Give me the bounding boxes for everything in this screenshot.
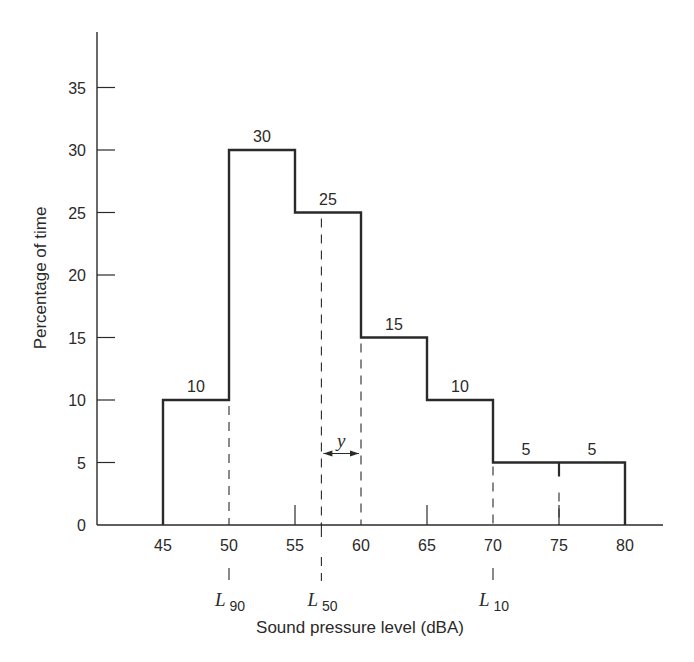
histogram-step-path xyxy=(163,150,625,525)
bar-value-label: 15 xyxy=(385,316,403,333)
x-tick-label: 80 xyxy=(616,537,634,554)
histogram-outline xyxy=(163,150,625,525)
marker-subscript: 90 xyxy=(230,598,246,614)
axes: 051015202530354550556065707580 xyxy=(68,32,663,554)
dashed-guides xyxy=(229,219,559,526)
bar-value-label: 30 xyxy=(253,128,271,145)
y-tick-label: 30 xyxy=(68,142,86,159)
marker-subscript: 10 xyxy=(494,598,510,614)
bar-value-label: 5 xyxy=(588,441,597,458)
y-axis-title: Percentage of time xyxy=(31,207,50,350)
y-tick-label: 35 xyxy=(68,80,86,97)
marker-subscript: 50 xyxy=(322,598,338,614)
marker-label-l10: L10 xyxy=(478,589,509,614)
y-dimension-arrow: y xyxy=(323,430,359,457)
bar-value-label: 5 xyxy=(522,441,531,458)
arrowhead-left-icon xyxy=(323,451,332,457)
bar-value-label: 25 xyxy=(319,191,337,208)
x-tick-label: 55 xyxy=(286,537,304,554)
dimension-label: y xyxy=(335,430,346,451)
x-tick-label: 60 xyxy=(352,537,370,554)
x-tick-label: 50 xyxy=(220,537,238,554)
x-tick-label: 75 xyxy=(550,537,568,554)
x-tick-label: 70 xyxy=(484,537,502,554)
x-tick-label: 45 xyxy=(154,537,172,554)
y-tick-label: 10 xyxy=(68,392,86,409)
marker-label-l90: L90 xyxy=(214,589,245,614)
y-tick-label: 25 xyxy=(68,205,86,222)
histogram-chart: 051015202530354550556065707580 103025151… xyxy=(0,0,694,662)
y-tick-label: 0 xyxy=(77,517,86,534)
y-tick-label: 20 xyxy=(68,267,86,284)
y-tick-label: 15 xyxy=(68,330,86,347)
bar-value-labels: 103025151055 xyxy=(187,128,596,458)
y-tick-label: 5 xyxy=(77,455,86,472)
arrowhead-right-icon xyxy=(350,451,359,457)
x-tick-label: 65 xyxy=(418,537,436,554)
marker-label-l50: L50 xyxy=(306,589,337,614)
bar-value-label: 10 xyxy=(187,378,205,395)
bar-value-label: 10 xyxy=(451,378,469,395)
x-axis-title: Sound pressure level (dBA) xyxy=(256,618,464,637)
